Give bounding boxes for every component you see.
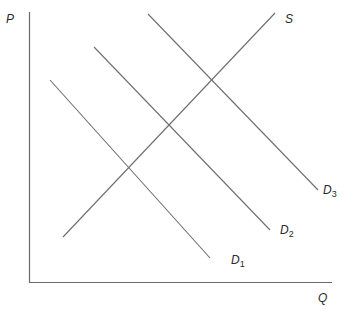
- curves-group: [50, 13, 318, 258]
- curve-label-text: D: [280, 223, 289, 237]
- curve-label-text: D: [323, 183, 332, 197]
- curve-label-text: D: [231, 253, 240, 267]
- curve-label-s: S: [285, 13, 293, 25]
- curve-label-subscript: 3: [332, 189, 337, 199]
- curve-label-d3: D3: [323, 184, 337, 199]
- demand-curve-d2: [94, 47, 270, 230]
- y-axis-label: P: [6, 13, 14, 25]
- curve-label-d1: D1: [231, 254, 245, 269]
- curve-label-subscript: 1: [240, 259, 245, 269]
- supply-demand-diagram: [0, 0, 347, 310]
- demand-curve-d3: [148, 14, 318, 190]
- curve-label-subscript: 2: [289, 229, 294, 239]
- curve-label-d2: D2: [280, 224, 294, 239]
- curve-label-text: S: [285, 12, 293, 26]
- x-axis-label: Q: [318, 292, 327, 304]
